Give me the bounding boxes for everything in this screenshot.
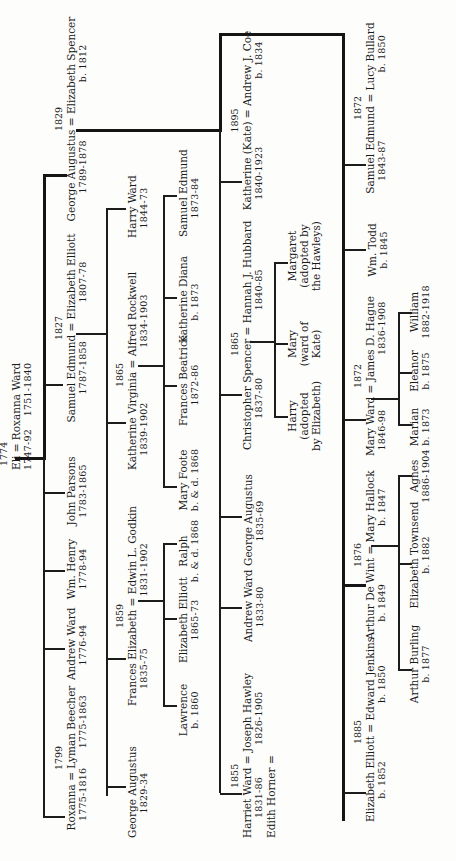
spouse1: Katherine (Kate): [241, 122, 253, 211]
couple-names: Arthur De Wint = Mary Hallock: [364, 470, 376, 640]
couple-names: Roxanna = Lyman Beecher: [65, 678, 77, 838]
person-name: Ralph: [177, 516, 189, 586]
person-dates: b. 1873: [420, 402, 432, 452]
person-name: Arthur Burling: [408, 624, 420, 704]
elizabeth-edward: 1885 Elizabeth Elliott = Edward Jenkins …: [352, 642, 388, 822]
dates1: b. 1849: [376, 584, 387, 622]
person-dates: 1844-73: [138, 178, 150, 238]
person-dates: b. 1845: [378, 220, 390, 280]
tick-george-a-young: [106, 786, 126, 788]
marriage-year: 1885: [352, 642, 364, 822]
ralph: Ralph b. & d. 1868: [177, 516, 201, 586]
person-name: Marian: [408, 402, 420, 452]
spouse2: Elizabeth Spencer: [65, 17, 77, 114]
george-elizabeth: 1829 George Augustus = Elizabeth Spencer…: [53, 14, 89, 224]
couple-dates: b. 1852 b. 1850: [376, 642, 388, 822]
person-dates: b. 1877: [420, 624, 432, 704]
dates2: 1840-85: [253, 269, 264, 310]
edith-horner: Edith Horner =: [265, 678, 277, 838]
person-note: (ward of: [298, 316, 310, 372]
person-dates: 1882-1918: [420, 280, 432, 344]
spouse2: James D. Hague: [364, 296, 376, 381]
marriage-year: 1865: [229, 238, 241, 450]
elizabeth-townsend: Elizabeth Townsend b. 1882: [408, 500, 432, 610]
couple-dates: 1747-92 1751-1840: [22, 320, 34, 470]
spouse1: Christopher Spencer: [241, 339, 253, 450]
marriage-year: 1876: [352, 470, 364, 640]
margaret: Margaret (adopted by the Hawleys): [286, 214, 322, 298]
couple-dates: 1787-1858 1807-78: [77, 228, 89, 428]
person-note: by Elizabeth): [310, 376, 322, 456]
spouse1: Elizabeth Elliott: [364, 736, 376, 822]
couple-names: Samuel Edmund = Lucy Bullard: [364, 13, 376, 203]
couple-names: Harriet Ward = Joseph Hawley: [241, 678, 253, 838]
person-name: William: [408, 280, 420, 344]
tick-samuel-e-young: [163, 195, 177, 197]
tick-andrew-ward-2: [220, 607, 242, 609]
couple-dates: 1775-1816 1775-1863: [77, 678, 89, 838]
person-name: Frances Beatrice: [177, 344, 189, 426]
spouse1: Roxanna: [65, 784, 77, 830]
spouse1: Frances Elizabeth: [126, 610, 138, 706]
frances-edwin: 1859 Frances Elizabeth = Edwin L. Godkin…: [114, 526, 150, 706]
tick-lawrence: [163, 705, 177, 707]
person-note: (adopted by: [298, 214, 310, 298]
person-dates: b. 1882: [420, 500, 432, 610]
christopher-children-bus: [274, 262, 276, 417]
arthur-children-bus: [398, 475, 400, 670]
marriage-year: 1872: [352, 13, 364, 203]
person-note: the Hawleys): [310, 214, 322, 298]
spouse2: Alfred Rockwell: [126, 272, 138, 357]
katherine-v-children-bus: [163, 195, 165, 487]
person-dates: b. 1875: [420, 344, 432, 398]
person-dates: 1865-73: [189, 577, 201, 663]
spouse2: Lucy Bullard: [364, 22, 376, 90]
arthur-burling: Arthur Burling b. 1877: [408, 624, 432, 704]
couple-names: Eli = Roxanna Ward: [10, 320, 22, 470]
samuel-elizabeth: 1827 Samuel Edmund = Elizabeth Elliott 1…: [53, 228, 89, 428]
dates2: b. 1812: [77, 44, 88, 82]
couple-names: Christopher Spencer = Hannah J. Hubbard: [241, 238, 253, 450]
andrew-ward: Andrew Ward 1776-94: [65, 610, 89, 680]
dates2: 1775-1863: [77, 695, 88, 748]
dates1: 1846-98: [376, 410, 387, 451]
dates1: 1789-1878: [77, 140, 88, 193]
george-marriage-line: [76, 129, 221, 132]
tick-john: [45, 492, 65, 494]
person-dates: b. & d. 1868: [189, 516, 201, 586]
marriage-year: 1865: [114, 280, 126, 470]
person-dates: 1776-94: [77, 610, 89, 680]
tick-wmhenry: [45, 570, 65, 572]
wm-henry: Wm. Henry 1778-94: [65, 538, 89, 600]
spouse2: Hannah J. Hubbard: [241, 221, 253, 324]
dates1: 1840-1923: [253, 146, 264, 199]
arthur-mary: 1876 Arthur De Wint = Mary Hallock b. 18…: [352, 470, 388, 640]
spouse2: Joseph Hawley: [241, 673, 253, 752]
couple-dates: b. 1849 b. 1847: [376, 470, 388, 640]
tick-ralph: [163, 543, 177, 545]
mary-james: 1872 Mary Ward = James D. Hague 1846-98 …: [352, 292, 388, 460]
wife-name: Roxanna Ward: [10, 363, 22, 440]
person-name: Mary Foote: [177, 445, 189, 515]
marriage-year: 1774: [0, 320, 10, 470]
husband-dates: 1747-92: [22, 429, 33, 470]
tick-elizabeth-e-young: [163, 618, 177, 620]
dates2: 1831-1902: [138, 543, 149, 596]
dates2: b. 1850: [376, 665, 387, 703]
frances-beatrice: Frances Beatrice 1872-86: [177, 344, 201, 426]
samuel-edmund-young: Samuel Edmund 1873-84: [177, 159, 201, 237]
frances-e-children-bus: [163, 543, 165, 706]
eleanor: Eleanor b. 1875: [408, 344, 432, 398]
mary-foote: Mary Foote b. & d. 1868: [177, 445, 201, 515]
mary-ward-children-bus: [398, 312, 400, 425]
george-augustus-2: George Augustus 1835-69: [242, 476, 266, 566]
root-couple: 1774 Eli = Roxanna Ward 1747-92 1751-184…: [0, 320, 34, 470]
person-name: Elizabeth Townsend: [408, 500, 420, 610]
tick-katherine-d: [163, 297, 177, 299]
agnes: Agnes 1886-1904: [408, 444, 432, 508]
person-dates: 1778-94: [77, 538, 89, 600]
samuel-lucy: 1872 Samuel Edmund = Lucy Bullard 1843-8…: [352, 13, 388, 203]
couple-dates: 1846-98 1836-1908: [376, 292, 388, 460]
tick-andrew: [45, 648, 65, 650]
person-dates: 1833-80: [254, 572, 266, 642]
